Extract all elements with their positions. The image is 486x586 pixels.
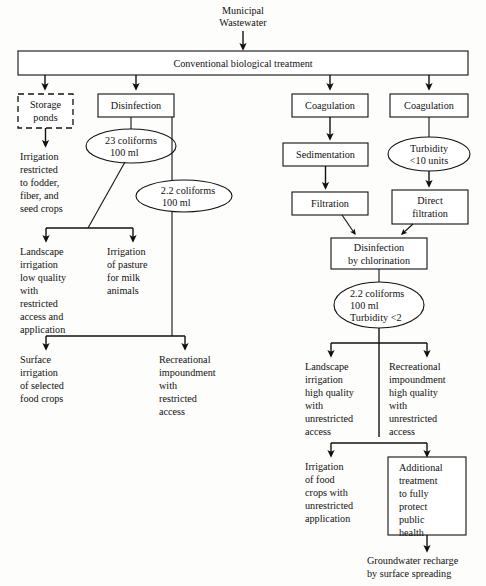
additional-treatment-line2: treatment: [399, 475, 438, 486]
recreational-restricted-line5: access: [159, 406, 185, 417]
coliforms22-turbidity2-line1: 2.2 coliforms: [350, 288, 404, 299]
source-label-line2: Wastewater: [219, 17, 267, 28]
node-storage-ponds[interactable]: Storage ponds: [18, 94, 73, 128]
irrigation-fodder-line2: restricted: [20, 164, 58, 175]
landscape-high-line6: access: [305, 426, 331, 437]
storage-ponds-label-line2: ponds: [33, 112, 57, 123]
node-disinfection[interactable]: Disinfection: [98, 94, 174, 117]
recreational-unrestricted-line5: unrestricted: [389, 413, 437, 424]
groundwater-recharge-line1: Groundwater recharge: [367, 555, 459, 566]
coagulation-left-label: Coagulation: [305, 100, 355, 111]
irrigation-fodder-line1: Irrigation: [20, 151, 58, 162]
criteria-22-coliforms-left: 2.2 coliforms 100 ml: [136, 180, 232, 212]
source-label: Municipal Wastewater: [219, 5, 267, 28]
connector-coliforms23-to-split: [88, 162, 125, 228]
direct-filtration-line1: Direct: [417, 195, 443, 206]
surface-irrigation-line3: of selected: [20, 380, 64, 391]
recreational-unrestricted-line4: with: [389, 400, 407, 411]
landscape-low-line4: with: [20, 285, 38, 296]
coliforms23-line2: 100 ml: [110, 147, 139, 158]
use-landscape-irrigation-high: Landscape irrigation high quality with u…: [305, 361, 355, 437]
additional-treatment-line6: health: [399, 527, 424, 538]
landscape-low-line3: low quality: [20, 272, 67, 283]
irrigation-pasture-line3: for milk: [107, 272, 141, 283]
irrigation-food-crops-line2: of food: [305, 474, 335, 485]
use-irrigation-food-crops: Irrigation of food crops with unrestrict…: [305, 461, 353, 524]
landscape-high-line3: high quality: [305, 387, 355, 398]
use-landscape-irrigation-low: Landscape irrigation low quality with re…: [20, 246, 67, 335]
coliforms22-turbidity2-line3: Turbidity <2: [350, 312, 402, 323]
irrigation-pasture-line2: of pasture: [107, 259, 148, 270]
recreational-unrestricted-line1: Recreational: [389, 361, 441, 372]
recreational-unrestricted-line2: impoundment: [389, 374, 446, 385]
node-coagulation-right[interactable]: Coagulation: [390, 94, 468, 117]
irrigation-pasture-line4: animals: [107, 285, 139, 296]
irrigation-food-crops-line4: unrestricted: [305, 500, 353, 511]
sedimentation-label: Sedimentation: [296, 149, 355, 160]
storage-ponds-label-line1: Storage: [30, 99, 62, 110]
main-process-label: Conventional biological treatment: [173, 58, 312, 69]
connector-filtration-to-disinfection-chlorination: [342, 215, 355, 234]
landscape-low-line1: Landscape: [20, 246, 64, 257]
turbidity10-line2: <10 units: [410, 155, 448, 166]
node-sedimentation[interactable]: Sedimentation: [283, 143, 368, 166]
additional-treatment-line5: public: [399, 514, 425, 525]
use-recreational-unrestricted: Recreational impoundment high quality wi…: [389, 361, 446, 437]
turbidity10-line1: Turbidity: [410, 143, 449, 154]
additional-treatment-line4: protect: [399, 501, 427, 512]
criteria-23-coliforms: 23 coliforms 100 ml: [86, 129, 176, 163]
landscape-low-line7: application: [20, 324, 65, 335]
coliforms22-left-line1: 2.2 coliforms: [161, 185, 215, 196]
landscape-low-line5: restricted: [20, 298, 58, 309]
irrigation-fodder-line5: seed crops: [20, 203, 63, 214]
recreational-restricted-line4: restricted: [159, 393, 197, 404]
irrigation-food-crops-line1: Irrigation: [305, 461, 343, 472]
recreational-restricted-line3: with: [159, 380, 177, 391]
irrigation-pasture-line1: Irrigation: [107, 246, 145, 257]
recreational-restricted-line1: Recreational: [159, 354, 211, 365]
use-groundwater-recharge: Groundwater recharge by surface spreadin…: [367, 555, 459, 579]
disinfection-chlorination-line1: Disinfection: [354, 242, 404, 253]
disinfection-chlorination-line2: by chlorination: [348, 255, 410, 266]
node-direct-filtration[interactable]: Direct filtration: [392, 190, 468, 224]
groundwater-recharge-line2: by surface spreading: [367, 568, 451, 579]
surface-irrigation-line1: Surface: [20, 354, 52, 365]
landscape-high-line1: Landscape: [305, 361, 349, 372]
landscape-high-line4: with: [305, 400, 323, 411]
landscape-low-line2: irrigation: [20, 259, 58, 270]
direct-filtration-line2: filtration: [412, 208, 448, 219]
flowchart-page: Municipal Wastewater Conventional biolog…: [0, 0, 486, 586]
node-coagulation-left[interactable]: Coagulation: [292, 94, 368, 117]
landscape-high-line2: irrigation: [305, 374, 343, 385]
disinfection-label: Disinfection: [111, 100, 161, 111]
coagulation-right-label: Coagulation: [404, 100, 454, 111]
additional-treatment-line1: Additional: [399, 462, 443, 473]
irrigation-fodder-line3: to fodder,: [20, 177, 59, 188]
use-irrigation-fodder: Irrigation restricted to fodder, fiber, …: [20, 151, 63, 214]
recreational-restricted-line2: impoundment: [159, 367, 216, 378]
filtration-label: Filtration: [311, 198, 349, 209]
landscape-low-line6: access and: [20, 311, 63, 322]
additional-treatment-line3: to fully: [399, 488, 430, 499]
node-conventional-biological-treatment[interactable]: Conventional biological treatment: [18, 51, 468, 75]
coliforms22-left-line2: 100 ml: [162, 197, 191, 208]
criteria-22-coliforms-turbidity-2: 2.2 coliforms 100 ml Turbidity <2: [334, 282, 424, 328]
use-surface-irrigation: Surface irrigation of selected food crop…: [20, 354, 64, 404]
node-additional-treatment[interactable]: Additional treatment to fully protect pu…: [388, 457, 466, 538]
node-filtration[interactable]: Filtration: [292, 192, 368, 215]
coliforms22-turbidity2-line2: 100 ml: [350, 300, 379, 311]
use-recreational-restricted: Recreational impoundment with restricted…: [159, 354, 216, 417]
wastewater-reuse-flowchart: Municipal Wastewater Conventional biolog…: [0, 0, 486, 586]
source-label-line1: Municipal: [222, 5, 264, 16]
recreational-unrestricted-line6: access: [389, 426, 415, 437]
recreational-unrestricted-line3: high quality: [389, 387, 439, 398]
coliforms23-line1: 23 coliforms: [105, 135, 157, 146]
node-disinfection-by-chlorination[interactable]: Disinfection by chlorination: [331, 238, 427, 269]
connector-direct-filtration-to-disinfection-chlorination: [402, 224, 413, 234]
irrigation-fodder-line4: fiber, and: [20, 190, 59, 201]
irrigation-food-crops-line3: crops with: [305, 487, 348, 498]
surface-irrigation-line4: food crops: [20, 393, 63, 404]
landscape-high-line5: unrestricted: [305, 413, 353, 424]
irrigation-food-crops-line5: application: [305, 513, 350, 524]
surface-irrigation-line2: irrigation: [20, 367, 58, 378]
